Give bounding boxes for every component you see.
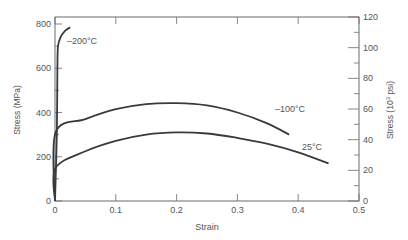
y-axis-label: Stress (MPa) xyxy=(12,85,22,135)
y-tick-label: 200 xyxy=(36,152,51,162)
y2-tick-label: 40 xyxy=(363,135,373,145)
y-tick-label: 0 xyxy=(46,196,51,206)
curve-minus100c xyxy=(53,103,289,201)
curve-25c xyxy=(53,132,328,201)
y2-tick-label: 120 xyxy=(363,12,378,22)
curve-minus200c xyxy=(55,27,70,201)
y2-label-part2: psi) xyxy=(385,81,395,97)
curves xyxy=(53,27,328,201)
plot-frame xyxy=(55,17,359,201)
x-axis-label: Strain xyxy=(195,222,219,232)
y2-tick-label: 20 xyxy=(363,165,373,175)
y2-tick-label: 100 xyxy=(363,43,378,53)
curve-label: –100°C xyxy=(275,104,306,114)
x-tick-label: 0.5 xyxy=(353,205,366,215)
x-tick-label: 0.3 xyxy=(231,205,244,215)
y2-tick-label: 0 xyxy=(363,196,368,206)
curve-labels: –200°C–100°C25°C xyxy=(67,36,323,152)
y-tick-label: 400 xyxy=(36,108,51,118)
x-tick-label: 0 xyxy=(52,205,57,215)
y-tick-label: 800 xyxy=(36,19,51,29)
y2-tick-label: 80 xyxy=(363,73,373,83)
stress-strain-chart: 00.10.20.30.40.5020040060080002040608010… xyxy=(0,0,408,240)
y2-label-part1: Stress (10 xyxy=(385,100,395,139)
y2-axis-label: Stress (103 psi) xyxy=(385,81,395,139)
x-tick-label: 0.4 xyxy=(292,205,305,215)
y-tick-label: 600 xyxy=(36,63,51,73)
y2-tick-label: 60 xyxy=(363,104,373,114)
curve-label: –200°C xyxy=(67,36,98,46)
curve-label: 25°C xyxy=(302,142,323,152)
x-tick-label: 0.2 xyxy=(170,205,183,215)
x-tick-label: 0.1 xyxy=(110,205,123,215)
